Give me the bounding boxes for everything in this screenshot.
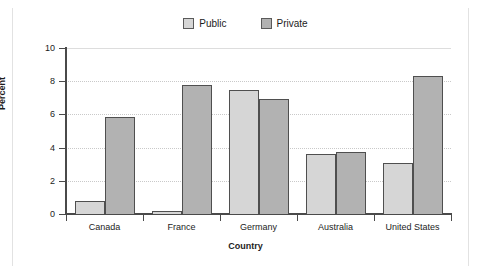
x-axis-tick xyxy=(451,215,452,221)
y-axis-tick-label: 0 xyxy=(25,209,55,219)
legend-label-public: Public xyxy=(199,19,226,29)
y-axis-tick xyxy=(59,214,65,215)
x-axis-category-label: France xyxy=(167,222,195,232)
y-axis-tick xyxy=(59,114,65,115)
bar-public-france xyxy=(152,211,182,214)
bars-layer xyxy=(66,48,451,214)
chart-figure: Public Private 0246810 Percent Country C… xyxy=(0,0,491,277)
x-axis-tick xyxy=(297,215,298,221)
y-axis-tick-label: 2 xyxy=(25,176,55,186)
bar-public-australia xyxy=(306,154,336,214)
y-axis-tick-label: 6 xyxy=(25,109,55,119)
x-axis-tick xyxy=(143,215,144,221)
bar-private-canada xyxy=(105,117,135,214)
public-swatch-icon xyxy=(183,18,194,29)
legend-item-public[interactable]: Public xyxy=(183,18,226,29)
page-rule-right xyxy=(468,8,469,266)
chart-legend: Public Private xyxy=(0,18,491,29)
x-axis-category-label: Germany xyxy=(240,222,277,232)
bar-private-united-states xyxy=(413,76,443,214)
y-axis-tick-label: 4 xyxy=(25,143,55,153)
x-axis-category-label: Canada xyxy=(89,222,121,232)
y-axis-tick-label: 10 xyxy=(25,43,55,53)
private-swatch-icon xyxy=(261,18,272,29)
bar-private-germany xyxy=(259,99,289,214)
x-axis-tick xyxy=(220,215,221,221)
bar-public-germany xyxy=(229,90,259,215)
y-axis-tick-labels: 0246810 xyxy=(22,0,55,277)
legend-item-private[interactable]: Private xyxy=(261,18,308,29)
bar-public-united-states xyxy=(383,163,413,214)
y-axis-tick xyxy=(59,148,65,149)
bar-public-canada xyxy=(75,201,105,214)
legend-label-private: Private xyxy=(277,19,308,29)
y-axis-title: Percent xyxy=(0,77,7,110)
x-axis-category-label: United States xyxy=(385,222,439,232)
page-rule-left xyxy=(12,8,13,266)
y-axis-tick xyxy=(59,48,65,49)
bar-private-france xyxy=(182,85,212,214)
x-axis-title: Country xyxy=(0,241,491,251)
bar-private-australia xyxy=(336,152,366,214)
x-axis-category-label: Australia xyxy=(318,222,353,232)
x-axis-tick xyxy=(374,215,375,221)
y-axis-tick-label: 8 xyxy=(25,76,55,86)
y-axis-tick xyxy=(59,181,65,182)
y-axis-tick xyxy=(59,81,65,82)
x-axis-tick xyxy=(66,215,67,221)
